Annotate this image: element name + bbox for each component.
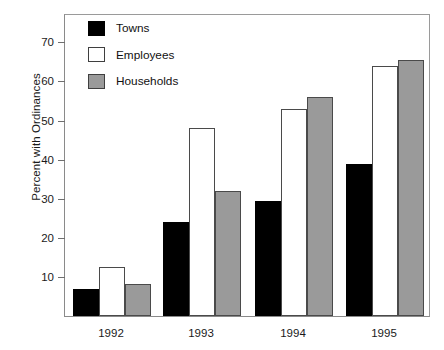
y-axis-tick: [58, 121, 65, 122]
legend-item-towns: Towns: [88, 20, 178, 36]
y-axis-tick: [58, 199, 65, 200]
y-axis-tick-label: 40: [41, 154, 54, 166]
bar-households-1994: [307, 97, 333, 316]
legend-label-towns: Towns: [116, 21, 149, 35]
y-axis-tick-label: 10: [41, 271, 54, 283]
bar-towns-1992: [73, 289, 99, 316]
y-axis-tick: [58, 160, 65, 161]
y-axis-tick: [58, 42, 65, 43]
y-axis-tick-label: 50: [41, 115, 54, 127]
y-axis-tick: [58, 81, 65, 82]
y-axis-tick: [58, 277, 65, 278]
y-axis-tick-label: 30: [41, 193, 54, 205]
legend-label-households: Households: [116, 74, 178, 88]
legend-swatch-households-icon: [88, 74, 105, 89]
bar-households-1992: [125, 284, 151, 316]
y-axis-tick-label: 60: [41, 75, 54, 87]
legend-item-employees: Employees: [88, 47, 178, 63]
y-axis-tick-label: 20: [41, 232, 54, 244]
bar-households-1995: [398, 60, 424, 316]
bar-towns-1994: [255, 201, 281, 316]
bar-chart-figure: Percent with Ordinances 10203040506070 T…: [0, 0, 444, 350]
legend-swatch-towns-icon: [88, 21, 105, 36]
x-axis-tick-label: 1993: [188, 327, 214, 339]
legend-item-households: Households: [88, 73, 178, 89]
legend-label-employees: Employees: [116, 48, 174, 62]
x-axis-tick-label: 1992: [98, 327, 124, 339]
y-axis-tick: [58, 238, 65, 239]
bar-employees-1994: [281, 109, 307, 316]
legend-swatch-employees-icon: [88, 47, 105, 62]
y-axis-tick-label: 70: [41, 36, 54, 48]
bar-employees-1993: [189, 128, 215, 316]
x-axis-tick-label: 1994: [280, 327, 306, 339]
bar-towns-1993: [163, 222, 189, 316]
chart-legend: Towns Employees Households: [88, 20, 178, 89]
x-axis-tick-label: 1995: [371, 327, 397, 339]
bar-employees-1992: [99, 267, 125, 316]
y-axis-title: Percent with Ordinances: [30, 17, 42, 257]
bar-towns-1995: [346, 164, 372, 316]
bar-employees-1995: [372, 66, 398, 316]
bar-households-1993: [215, 191, 241, 316]
